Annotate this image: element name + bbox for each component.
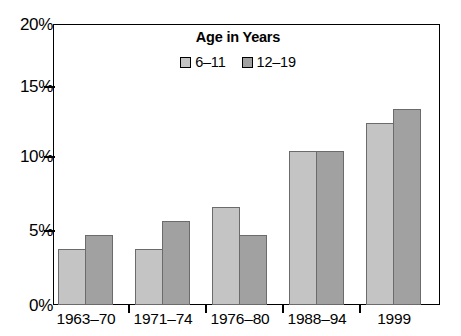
x-tick-mark-4 [359,305,361,313]
legend: Age in Years 6–11 12–19 [168,29,308,70]
legend-title: Age in Years [168,29,308,46]
bar-1999-12-19 [393,109,421,305]
x-tick-label-1999: 1999 [377,311,411,327]
bar-1971-74-12-19 [162,221,190,305]
x-tick-label-1976-80: 1976–80 [211,311,270,327]
legend-entry-6-11: 6–11 [180,55,225,70]
legend-entry-12-19: 12–19 [242,55,296,70]
x-tick-label-1988-94: 1988–94 [288,311,347,327]
bar-1999-6-11 [366,123,394,305]
legend-entries: 6–11 12–19 [168,55,308,70]
bar-1988-94-6-11 [289,151,317,305]
bar-1976-80-12-19 [239,235,267,305]
x-tick-label-1971-74: 1971–74 [134,311,193,327]
x-tick-label-1963-70: 1963–70 [57,311,116,327]
bar-chart: 20% 15% 10% 5% 0% 1963–70 1971–74 1976–8 [0,0,461,336]
legend-swatch-6-11-icon [180,57,191,68]
x-tick-mark-1 [128,305,130,313]
x-tick-mark-3 [282,305,284,313]
bar-1976-80-6-11 [212,207,240,305]
legend-label-6-11: 6–11 [195,55,225,70]
legend-swatch-12-19-icon [242,57,253,68]
bar-1971-74-6-11 [135,249,163,305]
bar-1963-70-6-11 [58,249,86,305]
bar-1988-94-12-19 [316,151,344,305]
x-tick-mark-2 [205,305,207,313]
bar-1963-70-12-19 [85,235,113,305]
legend-label-12-19: 12–19 [257,55,296,70]
